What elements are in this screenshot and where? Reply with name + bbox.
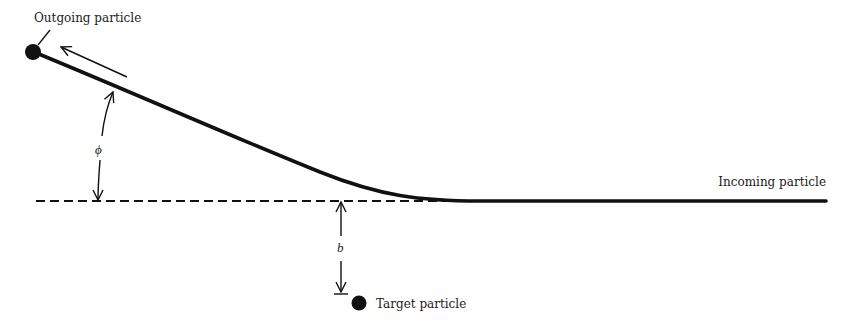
particle-trajectory <box>34 52 826 201</box>
impact-parameter-label: b <box>337 240 344 255</box>
outgoing-particle-dot <box>25 44 41 60</box>
outgoing-particle-label: Outgoing particle <box>34 11 141 25</box>
angle-arrow-down <box>98 160 100 200</box>
angle-phi-label: ϕ <box>95 142 102 157</box>
scattering-diagram: Outgoing particle ϕ b Target particle In… <box>0 0 851 326</box>
outgoing-leader-line <box>38 30 50 45</box>
incoming-particle-label: Incoming particle <box>718 175 826 189</box>
direction-arrow <box>61 47 127 77</box>
target-particle-label: Target particle <box>376 297 466 311</box>
target-particle-dot <box>352 296 367 311</box>
angle-arrow-up <box>102 92 113 136</box>
